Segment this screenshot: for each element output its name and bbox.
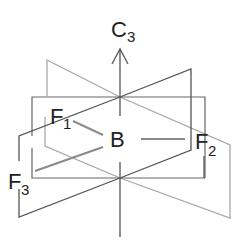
ligand-f2-label: F 2 xyxy=(195,129,216,159)
svg-text:F: F xyxy=(195,129,208,154)
svg-text:3: 3 xyxy=(21,181,29,198)
central-atom-label: B xyxy=(110,127,125,152)
ligand-f3-label: F 3 xyxy=(8,169,29,198)
ligand-f1-label: F 1 xyxy=(50,104,71,132)
bf3-symmetry-diagram: C 3 B F 1 F 2 F 3 xyxy=(0,0,244,245)
bond-b-f1 xyxy=(73,121,103,135)
svg-text:C: C xyxy=(111,17,127,42)
svg-text:F: F xyxy=(8,169,21,194)
svg-text:1: 1 xyxy=(63,115,71,132)
svg-text:F: F xyxy=(50,104,63,129)
bond-b-f3 xyxy=(35,147,103,171)
axis-label: C 3 xyxy=(111,17,135,45)
svg-text:2: 2 xyxy=(208,142,216,159)
svg-text:3: 3 xyxy=(127,28,135,45)
